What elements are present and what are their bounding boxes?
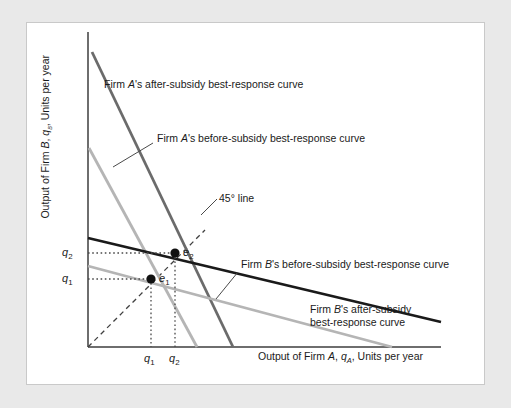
annotation-firm-b-after-subsidy-line2: best-response curve [310, 316, 411, 329]
annotation-firm-b-after-subsidy-line1: Firm B's after-subsidy [310, 303, 411, 316]
y-axis-title-symbol: q [39, 130, 51, 136]
y-axis-title-firm: B [39, 142, 51, 149]
y-axis-title-suffix: , Units per year [39, 55, 51, 126]
y-axis-title-comma: , [39, 136, 51, 142]
annotation-firm-a-before-subsidy: Firm A's before-subsidy best-response cu… [157, 132, 365, 145]
y-axis-title-prefix: Output of Firm [39, 149, 51, 219]
figure-panel [26, 22, 485, 385]
annotation-firm-a-after-subsidy: Firm A's after-subsidy best-response cur… [104, 78, 303, 91]
x-tick-label-q2: q2 [169, 352, 180, 367]
annotation-firm-b-before-subsidy: Firm B's before-subsidy best-response cu… [241, 258, 449, 271]
x-tick-label-q1: q1 [144, 352, 155, 367]
annotation-firm-b-after-subsidy: Firm B's after-subsidy best-response cur… [310, 303, 411, 329]
annotation-forty-five-degree-line: 45° line [219, 192, 254, 205]
y-tick-label-q2: q2 [62, 246, 73, 261]
point-label-e1: e1 [159, 272, 170, 287]
x-axis-title: Output of Firm A, qA, Units per year [258, 350, 423, 365]
y-tick-label-q1: q1 [62, 272, 73, 287]
x-axis-title-firm: A [328, 350, 335, 362]
x-axis-title-suffix: , Units per year [352, 350, 423, 362]
y-axis-title: Output of Firm B, qB, Units per year [39, 47, 53, 227]
x-axis-title-prefix: Output of Firm [258, 350, 328, 362]
y-axis-title-symbol-sub: B [42, 126, 51, 130]
point-label-e2: e2 [183, 246, 194, 261]
